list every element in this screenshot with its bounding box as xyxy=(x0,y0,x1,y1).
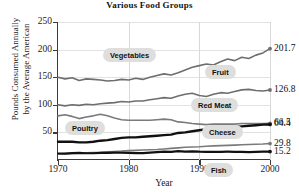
y-axis-tick-label: 250 xyxy=(18,16,52,26)
series-callout-poultry: Poultry xyxy=(66,122,104,134)
series-callout-red-meat: Red Meat xyxy=(192,99,237,111)
series-end-value: 126.8 xyxy=(274,84,295,94)
y-axis-tick-label: 50 xyxy=(18,126,52,136)
series-end-value: 64.4 xyxy=(274,118,291,128)
series-callout-cheese: Cheese xyxy=(203,126,242,138)
y-axis-tick-label: 150 xyxy=(18,71,52,81)
series-lines xyxy=(58,22,270,160)
series-end-marker xyxy=(268,47,272,51)
y-axis-tick-label: 200 xyxy=(18,44,52,54)
series-line xyxy=(58,151,270,154)
series-end-marker xyxy=(268,88,272,92)
x-axis-tick-label: 1970 xyxy=(38,164,78,174)
series-end-marker xyxy=(268,142,272,146)
x-axis-label: Year xyxy=(58,178,270,188)
series-callout-fish: Fish xyxy=(205,164,232,176)
x-axis-tick-label: 2000 xyxy=(250,164,290,174)
series-callout-vegetables: Vegetables xyxy=(104,49,155,61)
series-end-value: 15.2 xyxy=(274,146,291,156)
series-callout-fruit: Fruit xyxy=(206,66,235,78)
series-end-marker xyxy=(268,150,272,154)
series-end-value: 201.7 xyxy=(274,43,295,53)
y-axis-tick-label: 100 xyxy=(18,99,52,109)
chart-container: Various Food Groups Pounds Consumed Annu… xyxy=(0,0,299,194)
series-end-marker xyxy=(268,123,272,127)
x-axis-tick-label: 1980 xyxy=(109,164,149,174)
series-line xyxy=(58,89,270,106)
series-line xyxy=(58,49,270,81)
plot-area xyxy=(58,22,270,160)
chart-title: Various Food Groups xyxy=(0,0,299,10)
